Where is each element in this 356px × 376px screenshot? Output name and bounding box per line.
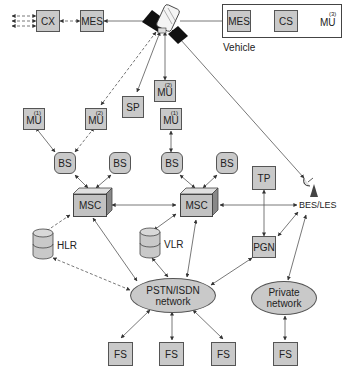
bs4-node: BS	[216, 152, 238, 174]
mu-sat-node: (2) MU	[154, 80, 176, 102]
bs2-node: BS	[109, 152, 131, 174]
bs1-node: BS	[54, 152, 76, 174]
mu-mid1-label: MU	[163, 115, 179, 126]
fs4-node: FS	[273, 342, 298, 366]
mu-mid1-sup: (1)	[171, 110, 178, 116]
vehicle-mu-label: MU	[320, 17, 336, 28]
vlr-label: VLR	[164, 239, 183, 250]
mu-left1-node: (1) MU	[23, 108, 45, 130]
mu-sat-sup: (2)	[165, 82, 172, 88]
bs2-label: BS	[113, 158, 126, 169]
pstn-isdn-network: PSTN/ISDN network	[130, 278, 216, 313]
bs3-node: BS	[161, 152, 183, 174]
tp-node: TP	[252, 166, 276, 190]
msc-left-label: MSC	[79, 200, 101, 211]
bs1-label: BS	[58, 158, 71, 169]
vehicle-mes-label: MES	[228, 16, 250, 27]
msc-left-node: MSC	[73, 194, 107, 217]
fs1-node: FS	[108, 342, 133, 366]
mu-left2-label: MU	[88, 115, 104, 126]
sp-label: SP	[126, 102, 139, 113]
tp-label: TP	[258, 173, 271, 184]
vehicle-mes-node: MES	[227, 10, 251, 32]
mu-left2-node: (2) MU	[85, 108, 107, 130]
vehicle-cs-label: CS	[279, 16, 293, 27]
msc-right-node: MSC	[180, 194, 213, 217]
mu-left1-label: MU	[26, 115, 42, 126]
vlr-database-icon	[140, 228, 160, 258]
hlr-database-icon	[33, 229, 53, 259]
pgn-label: PGN	[253, 242, 275, 253]
fs4-label: FS	[279, 349, 292, 360]
pstn-line2: network	[155, 296, 190, 307]
mu-left1-sup: (1)	[34, 110, 41, 116]
hlr-label: HLR	[57, 240, 77, 251]
private-line2: network	[266, 298, 301, 309]
vehicle-cs-node: CS	[274, 10, 298, 32]
msc-right-label: MSC	[185, 200, 207, 211]
private-network: Private network	[251, 281, 317, 315]
fs3-label: FS	[217, 349, 230, 360]
fs2-label: FS	[165, 349, 178, 360]
mes-label: MES	[81, 16, 103, 27]
vehicle-label: Vehicle	[223, 42, 255, 53]
bs4-label: BS	[220, 158, 233, 169]
mu-sat-label: MU	[157, 87, 173, 98]
network-diagram-links	[0, 0, 356, 376]
sp-node: SP	[122, 96, 144, 118]
mu-left2-sup: (2)	[96, 110, 103, 116]
dish-antenna-icon	[304, 178, 318, 197]
fs2-node: FS	[159, 342, 184, 366]
pgn-node: PGN	[252, 236, 276, 258]
cx-label: CX	[41, 16, 55, 27]
cx-node: CX	[36, 10, 60, 32]
mes-node: MES	[80, 10, 104, 32]
mu-mid1-node: (1) MU	[160, 108, 182, 130]
bs3-label: BS	[165, 158, 178, 169]
private-line1: Private	[268, 287, 299, 298]
fs1-label: FS	[114, 349, 127, 360]
fs3-node: FS	[211, 342, 236, 366]
pstn-line1: PSTN/ISDN	[146, 285, 199, 296]
bes-les-label: BES/LES	[299, 200, 337, 210]
